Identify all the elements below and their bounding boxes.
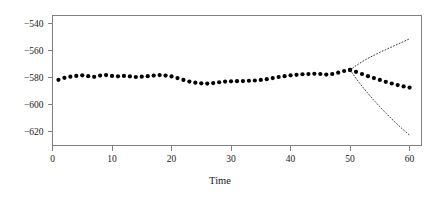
data-point [205,82,209,86]
data-point [324,72,328,76]
data-point [294,73,298,77]
data-point [158,73,162,77]
data-point [211,81,215,85]
x-axis-title: Time [209,175,231,186]
data-point [408,85,412,89]
data-point [74,74,78,78]
x-tick-label: 10 [107,154,117,164]
y-axis-tick-labels: −540−560−580−600−620 [24,19,44,137]
data-point [110,74,114,78]
data-point [169,74,173,78]
data-point [181,78,185,82]
data-point [217,80,221,84]
data-point [134,75,138,79]
x-tick-label: 40 [286,154,296,164]
y-axis-ticks [48,24,53,132]
x-axis-tick-labels: 0102030405060 [50,154,414,164]
data-point [193,81,197,85]
data-point [104,73,108,77]
y-tick-label: −620 [24,127,44,137]
data-point [116,74,120,78]
data-point [146,74,150,78]
data-point [372,76,376,80]
data-point [342,69,346,73]
series-forecast [348,68,412,90]
data-point [354,70,358,74]
series-upper-prediction-interval [350,39,410,70]
data-point [86,74,90,78]
data-point [402,84,406,88]
data-point [318,72,322,76]
data-point [247,79,251,83]
data-point [68,75,72,79]
data-point [277,75,281,79]
data-point [175,76,179,80]
data-point [330,72,334,76]
x-tick-label: 60 [405,154,415,164]
series-observed [56,68,352,86]
data-point [253,78,257,82]
data-point [283,74,287,78]
data-point [223,79,227,83]
x-tick-label: 50 [345,154,355,164]
data-point [152,74,156,78]
data-point [336,71,340,75]
y-tick-label: −600 [24,100,44,110]
data-point [235,79,239,83]
data-series-layer [56,39,411,135]
data-point [312,72,316,76]
y-tick-label: −580 [24,73,44,83]
data-point [390,81,394,85]
data-point [199,81,203,85]
y-tick-label: −540 [24,19,44,29]
data-point [396,83,400,87]
data-point [378,78,382,82]
data-point [98,74,102,78]
upper-prediction-interval-path [350,39,410,70]
data-point [384,80,388,84]
data-point [265,77,269,81]
data-point [128,74,132,78]
data-point [122,74,126,78]
data-point [366,74,370,78]
y-tick-label: −560 [24,46,44,56]
data-point [56,78,60,82]
data-point [140,75,144,79]
chart-canvas: −540−560−580−600−620 0102030405060 Time [0,0,440,197]
data-point [271,76,275,80]
data-point [163,74,167,78]
data-point [306,72,310,76]
data-point [360,72,364,76]
data-point [241,79,245,83]
data-point [92,75,96,79]
x-tick-label: 30 [226,154,236,164]
data-point [288,73,292,77]
forecast-chart: −540−560−580−600−620 0102030405060 Time [0,0,440,197]
data-point [229,79,233,83]
data-point [187,79,191,83]
x-tick-label: 0 [50,154,55,164]
data-point [62,76,66,80]
x-tick-label: 20 [167,154,177,164]
data-point [300,72,304,76]
data-point [259,78,263,82]
data-point [80,73,84,77]
x-axis-ticks [53,146,410,151]
